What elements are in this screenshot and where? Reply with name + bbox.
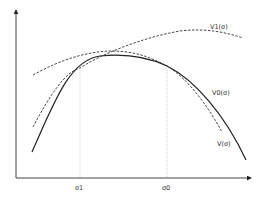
- v1-curve: [33, 30, 243, 127]
- v0-label: V0(σ): [212, 89, 230, 97]
- v0-curve: [33, 51, 222, 132]
- sigma1-tick-label: σ1: [75, 184, 83, 192]
- sigma0-tick-label: σ0: [162, 184, 170, 192]
- v-label: V(σ): [217, 140, 231, 148]
- v1-label: V1(σ): [210, 23, 228, 31]
- v-curve: [32, 55, 246, 160]
